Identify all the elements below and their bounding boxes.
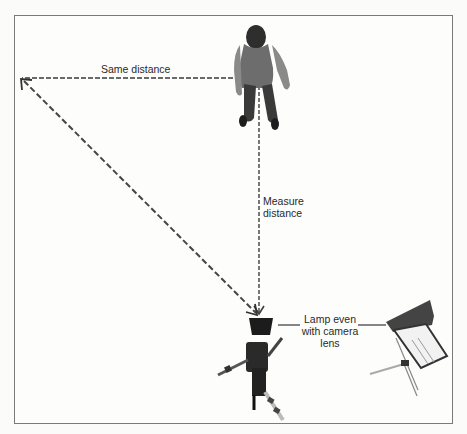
camera-tripod-icon bbox=[218, 318, 283, 420]
same-distance-label: Same distance bbox=[101, 63, 170, 75]
diagram-canvas bbox=[0, 0, 467, 434]
lamp-label-line1: Lamp even bbox=[299, 313, 361, 325]
lamp-label-line3: lens bbox=[299, 337, 361, 349]
subject-person-icon bbox=[234, 25, 290, 130]
lamp-stand-icon bbox=[370, 300, 447, 396]
measure-distance-line1: Measure bbox=[263, 195, 304, 207]
measure-distance-line2: distance bbox=[263, 207, 304, 219]
measure-distance-label: Measure distance bbox=[263, 195, 304, 219]
diagonal-arrow bbox=[21, 79, 257, 315]
lamp-label: Lamp even with camera lens bbox=[299, 313, 361, 349]
lamp-label-line2: with camera bbox=[299, 325, 361, 337]
